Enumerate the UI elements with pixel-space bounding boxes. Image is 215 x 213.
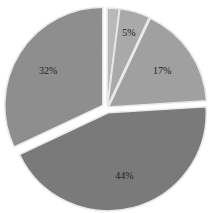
pie-slices [5,7,207,211]
slice-label: 32% [39,65,57,76]
slice-label: 44% [115,170,133,181]
pie-chart: 5%17%44%32% [0,0,215,213]
slice-label: 17% [153,65,171,76]
slice-label: 5% [122,27,135,38]
